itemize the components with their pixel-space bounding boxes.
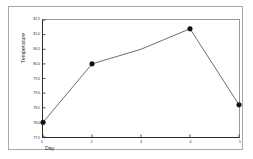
data-point-marker bbox=[90, 62, 95, 67]
x-tick-label: 1 bbox=[41, 140, 43, 144]
x-axis-tick-labels: 1 2 3 4 5 bbox=[42, 140, 240, 146]
x-tick-label: 2 bbox=[91, 140, 93, 144]
y-tick-label: 80.0 bbox=[33, 62, 40, 66]
y-tick-label: 79.5 bbox=[33, 77, 40, 81]
y-tick-label: 81.5 bbox=[33, 17, 40, 21]
line-chart-canvas bbox=[43, 20, 239, 137]
y-tick-label: 78.0 bbox=[33, 121, 40, 125]
y-tick-label: 78.5 bbox=[33, 106, 40, 110]
temperature-series-line bbox=[43, 29, 239, 123]
y-tick-label: 80.5 bbox=[33, 47, 40, 51]
x-axis-tick-marks bbox=[43, 134, 239, 137]
y-tick-label: 77.5 bbox=[33, 136, 40, 140]
figure-frame: 77.5 78.0 78.5 79.0 79.5 80.0 80.5 81.0 … bbox=[8, 6, 243, 150]
x-tick-label: 4 bbox=[190, 140, 192, 144]
data-point-marker bbox=[237, 102, 242, 107]
temperature-series-markers bbox=[41, 26, 242, 124]
x-tick-label: 3 bbox=[140, 140, 142, 144]
data-point-marker bbox=[188, 26, 193, 31]
x-tick-label: 5 bbox=[239, 140, 241, 144]
x-axis-title: Day bbox=[45, 145, 55, 151]
plot-area bbox=[42, 19, 240, 138]
y-tick-label: 81.0 bbox=[33, 32, 40, 36]
y-axis-title: Temperature bbox=[20, 33, 26, 63]
y-tick-label: 79.0 bbox=[33, 91, 40, 95]
data-point-marker bbox=[41, 120, 46, 125]
